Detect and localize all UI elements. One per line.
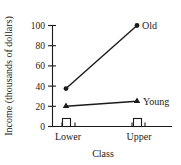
y-tick-label-80: 80	[36, 41, 46, 51]
data-point-young-upper	[134, 98, 140, 104]
chart-screenshot: 100 80 60 40 20 0 Old Young Lower Upper …	[0, 0, 181, 165]
x-axis-title: Class	[92, 148, 114, 159]
baseline-square-lower	[63, 119, 71, 127]
data-point-old-upper	[135, 23, 140, 28]
y-tick-label-40: 40	[36, 82, 46, 92]
series-line-old	[66, 26, 137, 89]
baseline-square-upper	[134, 119, 142, 127]
y-tick-label-20: 20	[36, 102, 46, 112]
y-axis-title: Income (thousands of dollars)	[3, 16, 15, 136]
income-by-class-line-chart: 100 80 60 40 20 0 Old Young Lower Upper …	[0, 0, 181, 165]
data-point-young-lower	[63, 103, 69, 109]
series-label-young: Young	[143, 96, 169, 107]
y-tick-label-0: 0	[40, 122, 45, 132]
x-category-label-lower: Lower	[55, 131, 82, 142]
y-tick-label-100: 100	[31, 21, 46, 31]
y-tick-label-60: 60	[36, 61, 46, 71]
data-point-old-lower	[64, 86, 69, 91]
series-line-young	[66, 101, 137, 106]
series-label-old: Old	[142, 20, 157, 31]
x-category-label-upper: Upper	[127, 131, 153, 142]
